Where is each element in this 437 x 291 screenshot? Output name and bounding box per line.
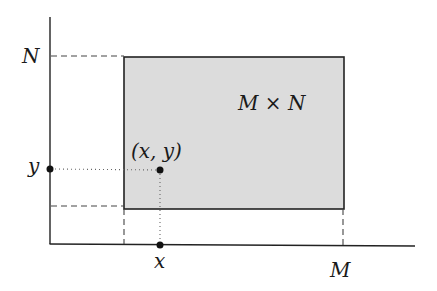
x-axis xyxy=(50,244,416,246)
label-region: M × N xyxy=(237,91,307,115)
point-xy-dot xyxy=(157,167,164,174)
label-point: (x, y) xyxy=(131,139,182,163)
label-x: x xyxy=(154,249,165,273)
image-region xyxy=(124,57,344,209)
label-y: y xyxy=(27,154,40,178)
coordinate-diagram: N y (x, y) M × N x M xyxy=(0,0,437,291)
label-m: M xyxy=(329,258,351,282)
y-axis-dot xyxy=(47,166,54,173)
x-axis-dot xyxy=(157,242,164,249)
label-n: N xyxy=(21,44,41,68)
